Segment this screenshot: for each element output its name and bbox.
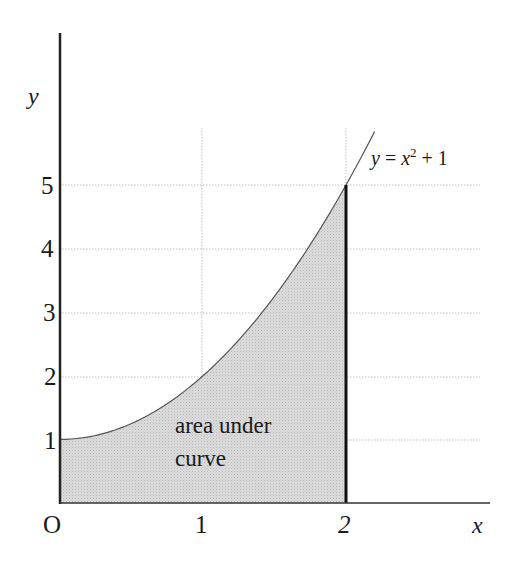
- area-label-line2: curve: [175, 446, 226, 471]
- y-tick-4: 4: [41, 235, 54, 262]
- y-tick-5: 5: [41, 172, 54, 199]
- area-label-line1: area under: [175, 413, 272, 438]
- eq-equals: =: [380, 147, 401, 169]
- x-axis-label: x: [471, 512, 483, 538]
- y-axis-label: y: [26, 83, 39, 109]
- area-under-curve-chart: y x O 1 2 5 4 3 2 1 y = x2 + 1 area unde…: [0, 0, 514, 562]
- x-tick-1: 1: [195, 511, 208, 538]
- origin-label: O: [43, 511, 61, 538]
- y-tick-1: 1: [44, 427, 57, 454]
- eq-y: y: [369, 147, 380, 170]
- y-tick-2: 2: [44, 363, 57, 390]
- eq-rest: + 1: [417, 147, 448, 169]
- eq-x: x: [400, 147, 410, 169]
- x-tick-2: 2: [338, 511, 351, 538]
- y-tick-3: 3: [43, 299, 56, 326]
- curve-equation-label: y = x2 + 1: [369, 145, 448, 170]
